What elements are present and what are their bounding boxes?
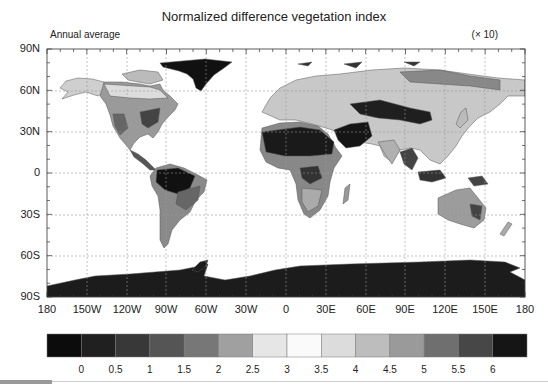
- x-tick-label: 60W: [186, 303, 226, 315]
- x-tick-label: 90E: [385, 303, 425, 315]
- x-tick-label: 150E: [465, 303, 505, 315]
- colorbar-label: 0.5: [101, 364, 131, 375]
- colorbar-label: 1: [135, 364, 165, 375]
- y-tick-label: 30N: [0, 125, 40, 137]
- colorbar-label: 1.5: [169, 364, 199, 375]
- colorbar-swatch: [253, 334, 287, 357]
- x-tick-label: 30E: [306, 303, 346, 315]
- colorbar-swatch: [47, 334, 81, 357]
- x-tick-label: 150W: [67, 303, 107, 315]
- x-tick-label: 30W: [226, 303, 266, 315]
- colorbar: [47, 334, 527, 357]
- x-tick-label: 120E: [425, 303, 465, 315]
- colorbar-label: 3.5: [306, 364, 336, 375]
- y-tick-label: 90N: [0, 42, 40, 54]
- colorbar-swatch: [81, 334, 115, 357]
- colorbar-swatch: [390, 334, 424, 357]
- x-tick-label: 180: [505, 303, 545, 315]
- colorbar-swatch: [287, 334, 321, 357]
- footer-tab: [0, 380, 52, 384]
- colorbar-swatch: [493, 334, 527, 357]
- y-tick-label: 60N: [0, 84, 40, 96]
- colorbar-label: 2.5: [238, 364, 268, 375]
- footer-divider: [0, 381, 548, 382]
- x-tick-label: 0: [266, 303, 306, 315]
- colorbar-swatch: [424, 334, 458, 357]
- x-tick-label: 90W: [146, 303, 186, 315]
- colorbar-label: 6: [478, 364, 508, 375]
- colorbar-swatch: [356, 334, 390, 357]
- colorbar-label: 5: [409, 364, 439, 375]
- colorbar-swatch: [458, 334, 492, 357]
- x-tick-label: 180: [27, 303, 67, 315]
- colorbar-swatch: [184, 334, 218, 357]
- colorbar-label: 3: [272, 364, 302, 375]
- colorbar-label: 0: [66, 364, 96, 375]
- colorbar-swatch: [150, 334, 184, 357]
- colorbar-swatch: [116, 334, 150, 357]
- y-tick-label: 90S: [0, 290, 40, 302]
- colorbar-label: 4.5: [375, 364, 405, 375]
- colorbar-label: 2: [203, 364, 233, 375]
- colorbar-label: 5.5: [443, 364, 473, 375]
- y-tick-label: 30S: [0, 208, 40, 220]
- colorbar-label: 4: [341, 364, 371, 375]
- colorbar-swatch: [218, 334, 252, 357]
- y-tick-label: 60S: [0, 249, 40, 261]
- y-tick-label: 0: [0, 166, 40, 178]
- x-tick-label: 60E: [346, 303, 386, 315]
- map-plot: [0, 0, 548, 384]
- x-tick-label: 120W: [107, 303, 147, 315]
- colorbar-swatch: [321, 334, 355, 357]
